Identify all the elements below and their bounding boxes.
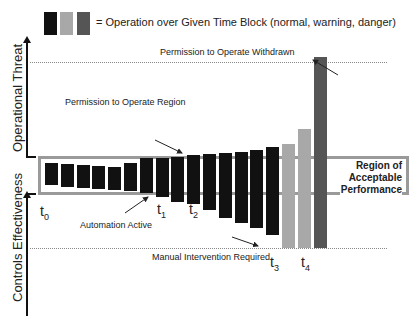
time-marker-t2: t2 [189, 201, 198, 220]
annotation-arrows [0, 0, 417, 325]
time-marker-t3: t3 [270, 254, 279, 273]
arrow-to-t2-bar-icon [155, 140, 182, 153]
arrow-manual-icon [232, 237, 258, 246]
time-marker-t1: t1 [157, 201, 166, 220]
time-marker-t0: t0 [40, 203, 49, 222]
time-marker-t4: t4 [301, 254, 310, 273]
arrow-withdrawn-icon [313, 60, 338, 75]
diagram-canvas: = Operation over Given Time Block (norma… [0, 0, 417, 325]
arrow-automation-icon [125, 197, 148, 213]
